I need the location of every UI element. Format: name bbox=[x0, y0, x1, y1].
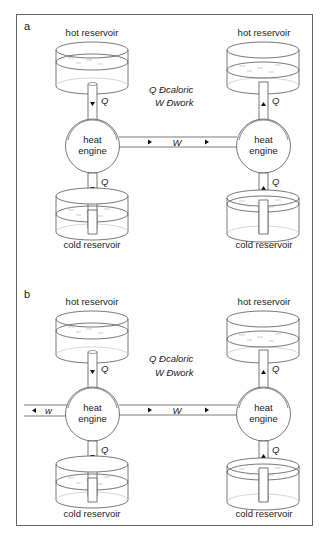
q-label: Q bbox=[101, 95, 109, 106]
small-w-label: w bbox=[45, 405, 53, 416]
work-shaft: W bbox=[119, 405, 237, 416]
q-label: Q bbox=[272, 95, 280, 106]
hot-reservoir-label: hot reservoir bbox=[238, 27, 291, 38]
legend: Q Ðcaloric W Ðwork bbox=[149, 84, 195, 108]
heat-pipe-top bbox=[259, 350, 268, 388]
q-label: Q bbox=[101, 363, 109, 374]
svg-text:engine: engine bbox=[249, 413, 278, 424]
q-label: Q bbox=[272, 444, 280, 455]
w-label: W bbox=[173, 137, 183, 148]
heat-pipe-top bbox=[259, 82, 268, 120]
svg-text:engine: engine bbox=[78, 413, 107, 424]
extra-work-shaft: w bbox=[24, 405, 68, 416]
legend: Q Ðcaloric W Ðwork bbox=[149, 353, 195, 378]
legend-caloric: Q Ðcaloric bbox=[149, 84, 194, 95]
arrow-right-icon bbox=[148, 408, 152, 413]
w-label: W bbox=[173, 405, 183, 416]
heat-engine: heat engine bbox=[237, 387, 291, 441]
heat-engine: heat engine bbox=[66, 387, 120, 441]
q-label: Q bbox=[101, 444, 109, 455]
svg-text:engine: engine bbox=[78, 145, 107, 156]
cold-reservoir-label: cold reservoir bbox=[235, 239, 292, 250]
q-label: Q bbox=[272, 363, 280, 374]
legend-work: W Ðwork bbox=[155, 97, 195, 108]
hot-reservoir-label: hot reservoir bbox=[66, 27, 119, 38]
q-label: Q bbox=[101, 176, 109, 187]
panel-b: b hot reservoir Q w heat engine Q bbox=[24, 288, 299, 519]
arrow-left-icon bbox=[32, 408, 36, 413]
cold-reservoir-label: cold reservoir bbox=[63, 508, 120, 519]
work-shaft: W bbox=[119, 137, 237, 148]
legend-caloric: Q Ðcaloric bbox=[149, 353, 194, 364]
q-label: Q bbox=[272, 176, 280, 187]
heat-engine-diagram: a hot reservoir Q heat engine Q bbox=[0, 0, 325, 546]
svg-text:heat: heat bbox=[83, 134, 102, 145]
arrow-right-icon bbox=[148, 140, 152, 145]
svg-text:heat: heat bbox=[254, 402, 273, 413]
heat-engine: heat engine bbox=[237, 119, 291, 173]
panel-a: a hot reservoir Q heat engine Q bbox=[24, 20, 299, 250]
arrow-right-icon bbox=[205, 140, 209, 145]
legend-work: W Ðwork bbox=[155, 367, 195, 378]
hot-reservoir-label: hot reservoir bbox=[238, 296, 291, 307]
cold-reservoir-label: cold reservoir bbox=[235, 508, 292, 519]
svg-text:heat: heat bbox=[83, 402, 102, 413]
heat-engine: heat engine bbox=[66, 119, 120, 173]
svg-text:engine: engine bbox=[249, 145, 278, 156]
hot-reservoir-label: hot reservoir bbox=[66, 296, 119, 307]
panel-letter-a: a bbox=[24, 20, 31, 32]
panel-letter-b: b bbox=[24, 288, 30, 300]
arrow-right-icon bbox=[205, 408, 209, 413]
svg-text:heat: heat bbox=[254, 134, 273, 145]
cold-reservoir-label: cold reservoir bbox=[63, 239, 120, 250]
